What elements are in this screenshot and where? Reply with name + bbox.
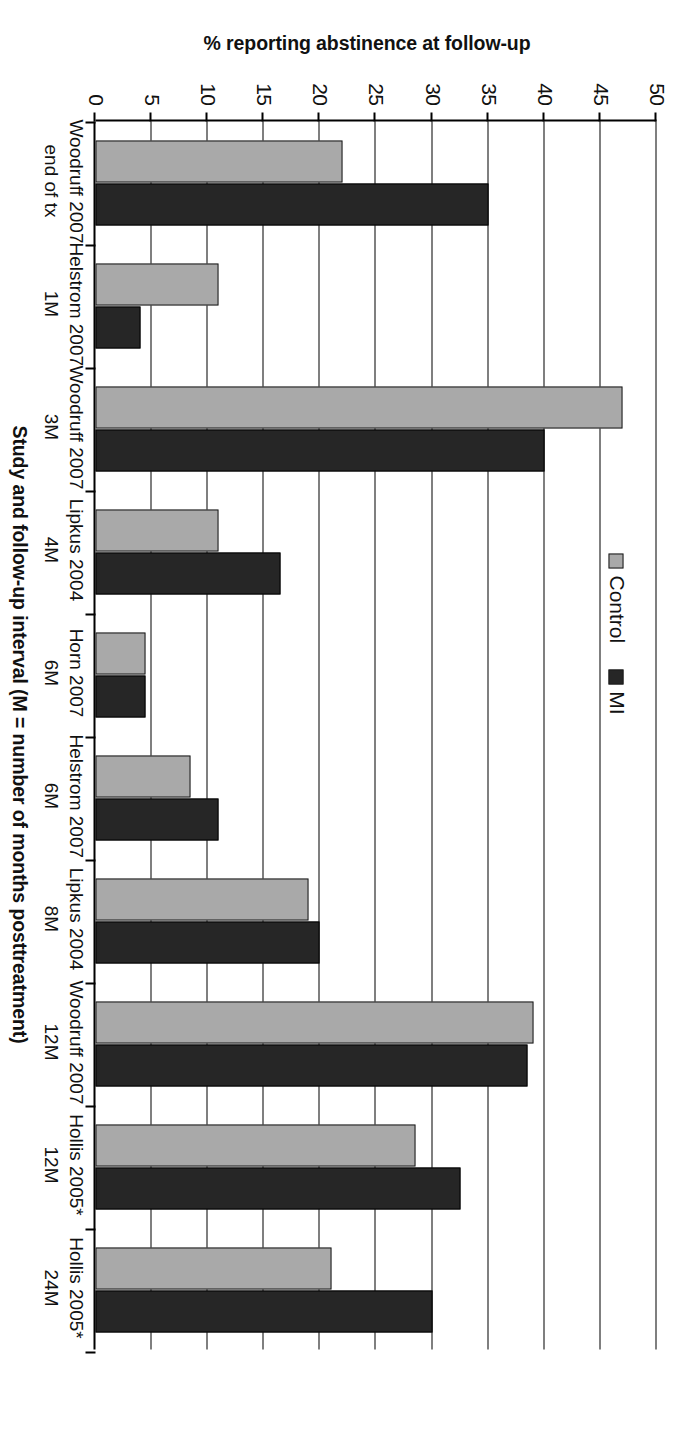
x-category-label: Woodruff 200712M (39, 981, 89, 1104)
bar-control (96, 1002, 534, 1044)
x-category-study: Woodruff 2007 (64, 120, 89, 243)
plot-area: Control MI (96, 120, 657, 1350)
y-tick-label: 20 (308, 64, 332, 106)
x-tick-mark (86, 1352, 96, 1354)
bar-mi (96, 1291, 433, 1333)
x-category-study: Helstrom 2007 (64, 735, 89, 858)
bar-mi (96, 1045, 528, 1087)
x-category-label: Woodruff 20073M (39, 366, 89, 489)
bar-control (96, 633, 146, 675)
x-category-interval: 24M (39, 1227, 64, 1350)
x-category-interval: 1M (39, 243, 64, 366)
x-category-interval: 4M (39, 489, 64, 612)
x-category-study: Hollis 2005* (64, 1104, 89, 1227)
bar-group (96, 122, 657, 245)
x-category-label: Hollis 2005*12M (39, 1104, 89, 1227)
y-tick-label: 45 (589, 64, 613, 106)
x-category-study: Woodruff 2007 (64, 366, 89, 489)
bar-control (96, 756, 191, 798)
x-category-label: Helstrom 20076M (39, 735, 89, 858)
legend-label-mi: MI (605, 692, 629, 715)
x-category-study: Lipkus 2004 (64, 858, 89, 981)
bar-control (96, 141, 343, 183)
x-category-label: Helstrom 20071M (39, 243, 89, 366)
x-category-label: Hollis 2005*24M (39, 1227, 89, 1350)
bar-control (96, 1248, 332, 1290)
legend-swatch-control-icon (610, 554, 625, 569)
y-tick-label: 30 (421, 64, 445, 106)
legend-item-mi: MI (605, 670, 629, 715)
bar-mi (96, 676, 146, 718)
bar-group (96, 491, 657, 614)
chart-root: % reporting abstinence at follow-up 0510… (0, 0, 679, 1446)
x-axis-title: Study and follow-up interval (M = number… (8, 120, 31, 1350)
bar-group (96, 245, 657, 368)
bar-mi (96, 184, 489, 226)
y-tick-label: 50 (645, 64, 669, 106)
chart-canvas: % reporting abstinence at follow-up 0510… (0, 0, 679, 1446)
bar-group (96, 860, 657, 983)
bar-group (96, 368, 657, 491)
legend-item-control: Control (605, 554, 629, 644)
y-tick-label: 35 (477, 64, 501, 106)
legend-swatch-mi-icon (610, 670, 625, 685)
x-category-label: Lipkus 20044M (39, 489, 89, 612)
legend: Control MI (605, 554, 629, 715)
bar-mi (96, 307, 141, 349)
bar-mi (96, 922, 320, 964)
x-category-study: Lipkus 2004 (64, 489, 89, 612)
x-category-interval: 12M (39, 981, 64, 1104)
x-category-interval: 6M (39, 612, 64, 735)
bar-control (96, 264, 219, 306)
bar-control (96, 1125, 416, 1167)
legend-label-control: Control (605, 576, 629, 644)
bar-group (96, 1229, 657, 1352)
x-category-interval: 6M (39, 735, 64, 858)
x-category-study: Hollis 2005* (64, 1227, 89, 1350)
bar-mi (96, 430, 545, 472)
x-category-interval: 3M (39, 366, 64, 489)
x-category-label: Lipkus 20048M (39, 858, 89, 981)
x-category-interval: 12M (39, 1104, 64, 1227)
rotated-page-stage: % reporting abstinence at follow-up 0510… (0, 0, 679, 1446)
bar-control (96, 387, 623, 429)
x-category-study: Woodruff 2007 (64, 981, 89, 1104)
y-tick-label: 15 (252, 64, 276, 106)
bar-group (96, 737, 657, 860)
y-tick-label: 5 (140, 64, 164, 106)
x-category-interval: 8M (39, 858, 64, 981)
bar-control (96, 510, 219, 552)
x-category-study: Helstrom 2007 (64, 243, 89, 366)
y-axis-tick-labels: 05101520253035404550 (0, 60, 679, 106)
y-tick-label: 10 (196, 64, 220, 106)
y-tick-label: 0 (84, 64, 108, 106)
bar-mi (96, 553, 281, 595)
x-category-label: Woodruff 2007end of tx (39, 120, 89, 243)
bar-mi (96, 1168, 461, 1210)
plot-wrapper: % reporting abstinence at follow-up 0510… (0, 0, 679, 1446)
bar-mi (96, 799, 219, 841)
bar-control (96, 879, 309, 921)
y-axis-title: % reporting abstinence at follow-up (138, 33, 598, 56)
bar-group (96, 983, 657, 1106)
y-tick-label: 25 (365, 64, 389, 106)
x-category-label: Horn 20076M (39, 612, 89, 735)
bar-group (96, 614, 657, 737)
x-category-interval: end of tx (39, 120, 64, 243)
y-tick-label: 40 (533, 64, 557, 106)
x-category-study: Horn 2007 (64, 612, 89, 735)
bar-group (96, 1106, 657, 1229)
